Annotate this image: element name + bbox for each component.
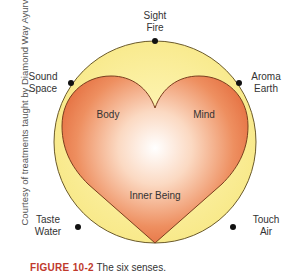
sense-name: Aroma <box>244 71 288 83</box>
sense-name: Touch <box>246 214 286 226</box>
dot-sight <box>152 38 158 44</box>
heart-label-mind: Mind <box>184 109 224 121</box>
label-touch: Touch Air <box>246 214 286 238</box>
figure-number: FIGURE 10-2 <box>30 262 94 273</box>
element-name: Fire <box>130 22 180 34</box>
element-name: Earth <box>244 83 288 95</box>
heart-label-inner-being: Inner Being <box>118 190 192 202</box>
element-name: Water <box>27 226 69 238</box>
heart-label-body: Body <box>88 109 128 121</box>
sense-name: Taste <box>27 214 69 226</box>
label-aroma: Aroma Earth <box>244 71 288 95</box>
element-name: Air <box>246 226 286 238</box>
label-taste: Taste Water <box>27 214 69 238</box>
dot-taste <box>75 224 81 230</box>
figure-title: The six senses. <box>96 262 165 273</box>
label-sight: Sight Fire <box>130 10 180 34</box>
dot-aroma <box>236 80 242 86</box>
figure-caption: FIGURE 10-2 The six senses. <box>30 262 166 273</box>
sense-name: Sight <box>130 10 180 22</box>
dot-touch <box>230 224 236 230</box>
dot-sound <box>68 80 74 86</box>
image-credit: Courtesy of treatments taught by Diamond… <box>19 46 30 226</box>
